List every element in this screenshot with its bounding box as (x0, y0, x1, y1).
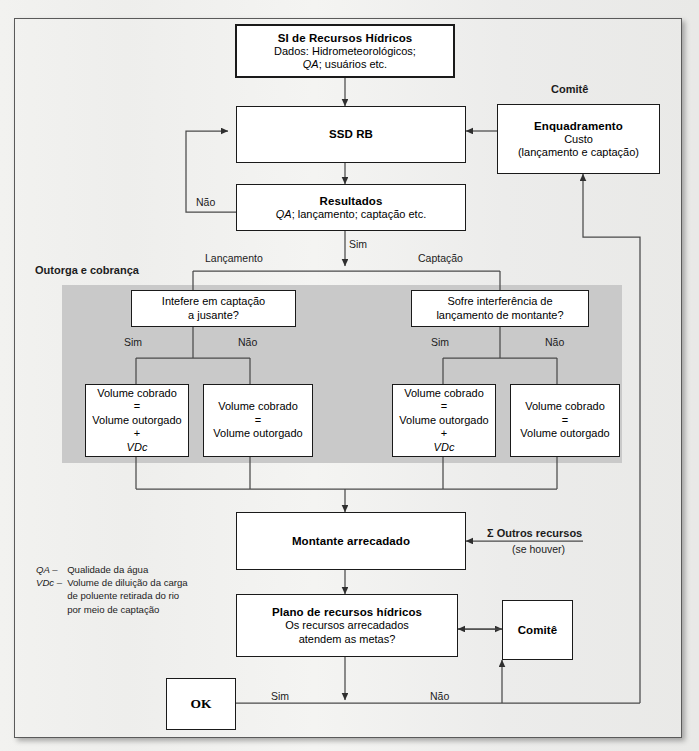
edge-label-captacao: Captação (418, 252, 463, 265)
si-line3: QA; usuários etc. (303, 58, 387, 71)
plano-line3: atendem as metas? (299, 633, 396, 646)
resultados-line2-rest: ; lançamento; captação etc. (292, 208, 427, 220)
plano-line2: Os recursos arrecadados (285, 619, 409, 632)
dec-right-line1: Sofre interferência de (447, 295, 552, 308)
montante-title: Montante arrecadado (292, 534, 410, 548)
node-enquadramento: Enquadramento Custo (lançamento e captaç… (497, 104, 660, 174)
legend-value-vdc: Volume de diluição da carga de poluente … (67, 576, 188, 616)
node-si-recursos-hidricos: SI de Recursos Hídricos Dados: Hidromete… (235, 24, 455, 78)
node-decision-sofre-interferencia: Sofre interferência de lançamento de mon… (411, 290, 589, 327)
dec-right-line2: lançamento de montante? (436, 309, 563, 322)
vol1-l4: + (134, 427, 140, 440)
legend-row: QA – Qualidade da água (36, 563, 188, 576)
vol4-l3: Volume outorgado (520, 427, 609, 440)
node-decision-intefere-captacao: Intefere em captação a jusante? (131, 290, 296, 327)
legend-row: VDc – Volume de diluição da carga de pol… (36, 576, 188, 616)
diagram-page: SI de Recursos Hídricos Dados: Hidromete… (0, 0, 699, 751)
vol1-l1: Volume cobrado (97, 387, 177, 400)
enquadramento-line3: (lançamento e captação) (518, 146, 639, 159)
dec-left-line1: Intefere em captação (162, 295, 265, 308)
vol4-l1: Volume cobrado (525, 400, 605, 413)
edge-label-sim-right: Sim (431, 336, 449, 349)
edge-label-nao-left: Não (238, 336, 257, 349)
vol2-l2: = (255, 414, 261, 427)
vol1-l2: = (134, 400, 140, 413)
edge-label-sim-resultados: Sim (349, 238, 367, 251)
enquadramento-line2: Custo (564, 133, 593, 146)
ssd-title: SSD RB (329, 127, 373, 141)
si-line2: Dados: Hidrometeorológicos; (274, 45, 416, 58)
edge-label-sim-bottom: Sim (271, 690, 289, 703)
vol3-l4: + (441, 427, 447, 440)
legend-key-qa: QA – (36, 563, 67, 576)
plano-title: Plano de recursos hídricos (272, 605, 422, 619)
vol3-l1: Volume cobrado (404, 387, 484, 400)
si-qa-italic: QA (303, 58, 319, 70)
vol3-l2: = (441, 400, 447, 413)
node-volume-2: Volume cobrado = Volume outorgado (203, 384, 313, 457)
si-title: SI de Recursos Hídricos (278, 31, 413, 45)
node-volume-1: Volume cobrado = Volume outorgado + VDc (85, 384, 189, 457)
diagram-canvas: SI de Recursos Hídricos Dados: Hidromete… (0, 0, 699, 751)
vol3-l3: Volume outorgado (399, 414, 488, 427)
vol3-l5: VDc (434, 441, 455, 454)
node-resultados: Resultados QA; lançamento; captação etc. (236, 184, 466, 231)
edge-label-outros-recursos: Σ Outros recursos (487, 527, 582, 541)
resultados-title: Resultados (320, 194, 383, 208)
ok-title: OK (190, 696, 211, 712)
node-ok: OK (166, 678, 236, 730)
edge-label-nao-right: Não (545, 336, 564, 349)
legend-table: QA – Qualidade da água VDc – Volume de d… (36, 563, 188, 616)
legend: QA – Qualidade da água VDc – Volume de d… (36, 563, 188, 616)
node-montante-arrecadado: Montante arrecadado (236, 512, 466, 570)
edge-label-lancamento: Lançamento (205, 252, 263, 265)
edge-label-sim-left: Sim (124, 336, 142, 349)
edge-label-nao-ssd: Não (196, 196, 215, 209)
label-comite-top: Comitê (551, 83, 588, 97)
node-volume-3: Volume cobrado = Volume outorgado + VDc (392, 384, 496, 457)
vol2-l3: Volume outorgado (213, 427, 302, 440)
enquadramento-title: Enquadramento (534, 119, 623, 133)
vol1-l5: VDc (127, 441, 148, 454)
vol2-l1: Volume cobrado (218, 400, 298, 413)
legend-value-qa: Qualidade da água (67, 563, 188, 576)
vol4-l2: = (562, 414, 568, 427)
comite-box-title: Comitê (518, 623, 558, 637)
dec-left-line2: a jusante? (188, 309, 239, 322)
si-line3-rest: ; usuários etc. (319, 58, 387, 70)
edge-label-nao-bottom: Não (430, 690, 449, 703)
legend-key-vdc: VDc – (36, 576, 67, 616)
resultados-qa-italic: QA (276, 208, 292, 220)
node-ssd-rb: SSD RB (236, 106, 466, 163)
vol1-l3: Volume outorgado (92, 414, 181, 427)
resultados-line2: QA; lançamento; captação etc. (276, 208, 426, 221)
edge-label-se-houver: (se houver) (512, 543, 565, 556)
node-comite: Comitê (502, 600, 573, 660)
node-plano-recursos-hidricos: Plano de recursos hídricos Os recursos a… (236, 594, 458, 657)
node-volume-4: Volume cobrado = Volume outorgado (510, 384, 620, 457)
label-outorga-e-cobranca: Outorga e cobrança (35, 264, 139, 278)
